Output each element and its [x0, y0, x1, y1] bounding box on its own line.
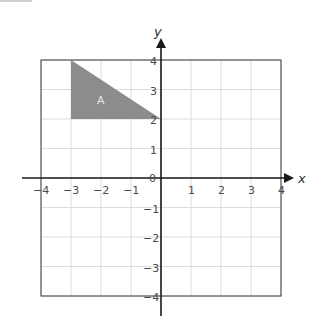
origin-label: 0 [149, 172, 156, 185]
x-tick-label: −4 [33, 184, 49, 197]
coordinate-plane: A x y 0 −4−3−2−11234 4321−1−2−3−4 [0, 0, 325, 325]
y-tick-label: −2 [143, 232, 159, 245]
y-axis-label: y [153, 24, 162, 39]
y-tick-label: −4 [143, 291, 159, 304]
x-tick-label: 2 [218, 184, 225, 197]
y-tick-label: 1 [150, 144, 157, 157]
y-tick-label: −3 [143, 262, 159, 275]
y-tick-label: 3 [150, 85, 157, 98]
x-tick-label: 4 [278, 184, 285, 197]
y-tick-label: −1 [143, 203, 159, 216]
x-tick-label: −3 [63, 184, 79, 197]
x-tick-label: −2 [93, 184, 109, 197]
y-tick-label: 4 [150, 55, 157, 68]
y-tick-label: 2 [150, 114, 157, 127]
x-tick-labels: −4−3−2−11234 [33, 184, 285, 197]
x-tick-label: −1 [123, 184, 139, 197]
x-axis-label: x [297, 171, 306, 186]
x-tick-label: 1 [188, 184, 195, 197]
x-tick-label: 3 [248, 184, 255, 197]
shape-label-a: A [97, 94, 105, 107]
